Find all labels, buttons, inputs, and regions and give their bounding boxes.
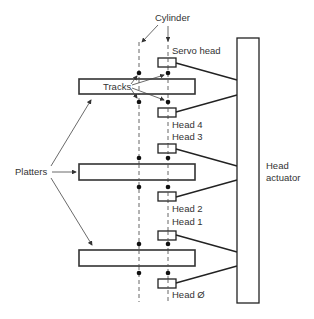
track-dot (166, 271, 171, 276)
cylinder-label: Cylinder (155, 12, 190, 23)
track-dot (166, 242, 171, 247)
head-0 (158, 279, 176, 288)
head-2-label: Head 2 (172, 203, 203, 214)
track-dot (137, 100, 142, 105)
track-dot (166, 100, 171, 105)
actuator-label-line1: Head (266, 160, 289, 171)
platters-arrow-bottom (51, 178, 92, 245)
head-0-label: Head Ø (172, 289, 205, 300)
platter-2 (79, 164, 195, 180)
actuator-label-line2: actuator (266, 172, 300, 183)
head-3-label: Head 3 (172, 131, 203, 142)
platters-arrow-top (51, 100, 91, 166)
track-dot (166, 71, 171, 76)
tracks-label: Tracks (103, 81, 131, 92)
platter-3 (79, 250, 195, 266)
arm-servo (176, 63, 237, 80)
track-dot (166, 156, 171, 161)
track-dot (137, 242, 142, 247)
track-dot (137, 71, 142, 76)
head-3 (158, 144, 176, 153)
head-4 (158, 108, 176, 117)
platters-label: Platters (15, 166, 47, 177)
arm-head-0 (176, 266, 237, 283)
head-2 (158, 192, 176, 201)
head-1-label: Head 1 (172, 216, 203, 227)
servo-head (158, 58, 176, 67)
arm-head-2 (176, 180, 237, 197)
head-4-label: Head 4 (172, 119, 203, 130)
track-dot (137, 156, 142, 161)
disk-diagram: Cylinder Tracks Servo h (0, 0, 314, 319)
track-dot (166, 185, 171, 190)
platter-1 (79, 79, 195, 94)
arm-head-4 (176, 95, 237, 112)
cylinder-arrow-left (142, 25, 158, 42)
servo-head-label: Servo head (172, 45, 221, 56)
track-dot (137, 271, 142, 276)
track-dot (137, 185, 142, 190)
head-1 (158, 231, 176, 240)
head-actuator (237, 38, 259, 303)
